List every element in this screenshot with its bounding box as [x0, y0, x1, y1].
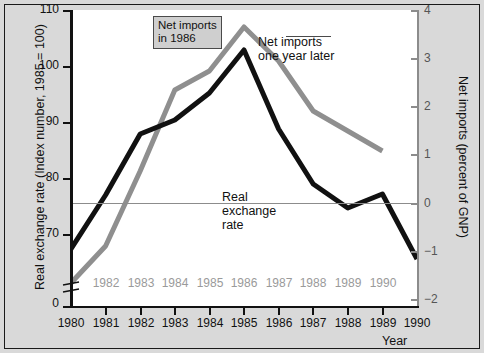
bottom-tick-1984 — [209, 307, 211, 315]
bottom-gray-label-1987: 1987 — [266, 276, 293, 290]
right-tick-0 — [411, 203, 419, 205]
right-tick-minus2 — [411, 299, 419, 301]
right-tick-label-2: 2 — [424, 99, 431, 113]
figure: Net imports in 1986 Net imports one year… — [0, 0, 484, 353]
right-tick-label-4: 4 — [424, 3, 431, 17]
series-net-imports-line — [71, 27, 382, 283]
bottom-axis-line — [71, 306, 419, 308]
series-label-net-imports: Net imports one year later — [258, 35, 334, 63]
bottom-tick-1981 — [105, 307, 107, 315]
left-axis-line — [70, 10, 73, 307]
right-axis-title: Net imports (percent of GNP) — [456, 22, 470, 292]
bottom-gray-label-1988: 1988 — [300, 276, 327, 290]
bottom-label-1986: 1986 — [266, 316, 293, 330]
bottom-gray-label-1986: 1986 — [231, 276, 258, 290]
bottom-label-1980: 1980 — [58, 316, 85, 330]
right-tick-label-3: 3 — [424, 51, 431, 65]
right-tick-1 — [411, 154, 419, 156]
bottom-tick-1988 — [347, 307, 349, 315]
right-tick-label-1: 1 — [424, 147, 431, 161]
bottom-tick-1983 — [174, 307, 176, 315]
series-label-real-exchange: Real exchange rate — [222, 190, 276, 232]
bottom-label-1983: 1983 — [162, 316, 189, 330]
left-axis-title: Real exchange rate (Index number, 1985 =… — [33, 22, 47, 292]
bottom-label-1981: 1981 — [93, 316, 120, 330]
bottom-tick-1985 — [243, 307, 245, 315]
right-tick-label-0: 0 — [424, 196, 431, 210]
right-axis-line — [417, 10, 419, 307]
bottom-label-1985: 1985 — [231, 316, 258, 330]
right-tick-3 — [411, 58, 419, 60]
bottom-label-1988: 1988 — [335, 316, 362, 330]
bottom-gray-label-1990: 1990 — [370, 276, 397, 290]
left-tick-100 — [63, 66, 71, 68]
bottom-gray-label-1985: 1985 — [197, 276, 224, 290]
left-tick-80 — [63, 178, 71, 180]
right-tick-2 — [411, 106, 419, 108]
bottom-gray-label-1982: 1982 — [93, 276, 120, 290]
bottom-tick-1986 — [278, 307, 280, 315]
left-tick-110 — [63, 10, 71, 12]
right-tick-label-minus1: −1 — [424, 244, 438, 258]
axis-break-icon — [62, 281, 80, 295]
bottom-label-1982: 1982 — [128, 316, 155, 330]
left-tick-90 — [63, 122, 71, 124]
series-canvas — [71, 10, 417, 307]
left-tick-0 — [63, 306, 71, 308]
bottom-gray-label-1984: 1984 — [162, 276, 189, 290]
bottom-gray-label-1989: 1989 — [335, 276, 362, 290]
callout-net-imports-1986: Net imports in 1986 — [153, 16, 222, 49]
bottom-tick-1989 — [382, 307, 384, 315]
x-axis-title: Year — [382, 334, 407, 348]
bottom-label-1989: 1989 — [370, 316, 397, 330]
right-tick-minus1 — [411, 251, 419, 253]
right-tick-4 — [411, 10, 419, 12]
bottom-label-1984: 1984 — [197, 316, 224, 330]
right-tick-label-minus2: −2 — [424, 292, 438, 306]
bottom-gray-label-1983: 1983 — [128, 276, 155, 290]
bottom-label-1987: 1987 — [300, 316, 327, 330]
plot-area — [71, 10, 417, 307]
bottom-tick-1987 — [312, 307, 314, 315]
left-tick-70 — [63, 234, 71, 236]
bottom-tick-1982 — [140, 307, 142, 315]
bottom-label-1990: 1990 — [404, 316, 431, 330]
